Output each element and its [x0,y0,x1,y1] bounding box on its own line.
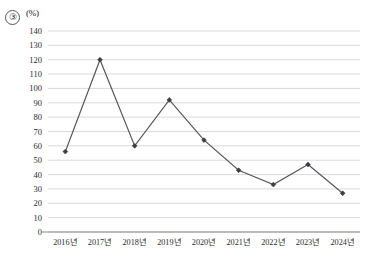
y-axis-tick-label: 60 [34,141,43,151]
x-axis-tick-label: 2021년 [226,237,250,247]
y-axis-tick-labels: 0102030405060708090100110120130140 [29,26,42,237]
y-axis-tick-label: 70 [34,127,43,137]
x-axis-tick-label: 2023년 [296,237,320,247]
x-axis-tick-label: 2019년 [157,237,181,247]
y-axis-tick-label: 110 [30,69,42,79]
y-axis-tick-label: 120 [29,55,42,65]
x-axis-tick-label: 2016년 [53,237,77,247]
y-axis-tick-label: 40 [34,170,43,180]
x-axis-tick-label: 2020년 [192,237,216,247]
y-axis-tick-label: 50 [34,155,43,165]
y-axis-tick-label: 130 [29,40,42,50]
x-axis-tick-label: 2018년 [122,237,146,247]
y-axis-tick-label: 10 [34,213,43,223]
x-axis-tick-label: 2017년 [88,237,112,247]
chart-figure: ③ (%) 0102030405060708090100110120130140… [0,0,369,260]
y-axis-tick-label: 80 [34,112,43,122]
y-axis-tick-label: 90 [34,98,43,108]
y-axis-tick-label: 20 [34,198,43,208]
series-polyline [65,60,342,194]
data-series-line [65,60,342,194]
x-axis-tick-label: 2024년 [330,237,354,247]
x-axis-tick-label: 2022년 [261,237,285,247]
x-axis-tick-labels: 2016년2017년2018년2019년2020년2021년2022년2023년… [53,237,355,247]
y-axis-tick-label: 100 [29,83,42,93]
data-point-marker [98,57,103,62]
y-axis-tick-label: 0 [38,227,42,237]
y-axis-tick-label: 140 [29,26,42,36]
y-axis-tick-label: 30 [34,184,43,194]
line-chart-plot: 0102030405060708090100110120130140 2016년… [0,0,369,260]
data-point-marker [63,149,68,154]
grid-lines [48,31,360,232]
